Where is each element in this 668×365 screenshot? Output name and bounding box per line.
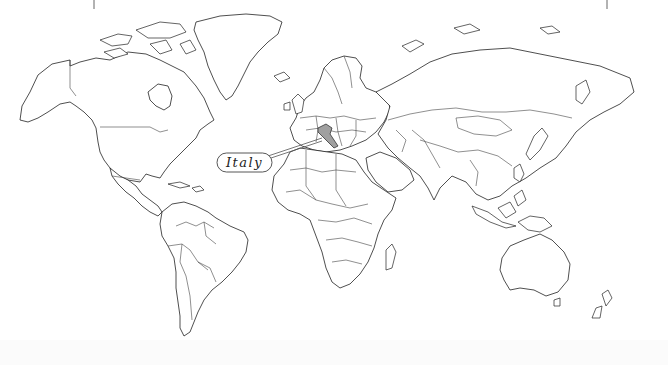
callout-label: Italy	[225, 155, 263, 170]
north-america	[20, 14, 282, 216]
world-map: Italy	[0, 0, 668, 365]
asia	[376, 24, 634, 200]
europe	[274, 56, 390, 152]
africa	[272, 148, 414, 288]
south-america	[160, 202, 248, 336]
